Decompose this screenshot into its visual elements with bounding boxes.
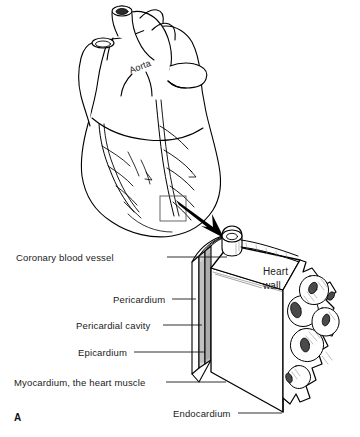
epicardium-layer	[205, 246, 211, 364]
label-heart-wall-line2: wall	[263, 280, 281, 293]
vessel-stub-lumen	[227, 233, 238, 239]
label-coronary-blood-vessel: Coronary blood vessel	[16, 252, 114, 263]
label-myocardium: Myocardium, the heart muscle	[14, 377, 145, 388]
pericardium-layer	[192, 256, 199, 374]
panel-letter-label: A	[14, 412, 21, 423]
figure-artwork	[0, 0, 360, 437]
pulmonary-artery-stub	[168, 63, 207, 88]
label-pericardial-cavity: Pericardial cavity	[76, 320, 151, 331]
label-pericardium: Pericardium	[113, 294, 165, 305]
pericardial-cavity-layer	[199, 251, 205, 368]
label-endocardium: Endocardium	[173, 408, 231, 419]
label-epicardium: Epicardium	[78, 347, 127, 358]
coronary-vessel-stub	[222, 226, 242, 256]
heart-wall-block	[192, 226, 339, 412]
heart-organ-drawing	[79, 6, 221, 237]
aorta-cut-lumen-inner	[116, 9, 128, 15]
anatomy-figure-heart-wall: Aorta Coronary blood vessel Pericardium …	[0, 0, 360, 437]
vena-cava-cut-lumen-inner	[96, 41, 111, 47]
label-heart-wall-line1: Heart	[263, 266, 288, 279]
